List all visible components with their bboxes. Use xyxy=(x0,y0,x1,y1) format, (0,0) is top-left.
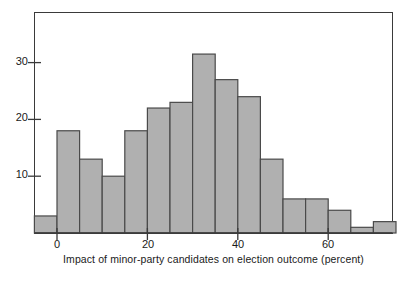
histogram-figure: 30 20 10 0 20 40 60 Impact of minor-part… xyxy=(0,0,408,283)
x-tick-label-60: 60 xyxy=(316,238,340,250)
histogram-bar xyxy=(283,199,306,233)
bars-group xyxy=(34,54,396,233)
histogram-bar xyxy=(34,216,57,233)
histogram-bar xyxy=(170,102,193,233)
histogram-bar xyxy=(328,210,351,233)
x-axis-title: Impact of minor-party candidates on elec… xyxy=(34,253,393,265)
histogram-bar xyxy=(193,54,216,233)
histogram-bar xyxy=(351,227,374,233)
y-tick-label-20: 20 xyxy=(6,111,28,123)
x-tick-label-0: 0 xyxy=(45,238,69,250)
x-tick-label-40: 40 xyxy=(226,238,250,250)
histogram-bar xyxy=(57,131,80,233)
histogram-bar xyxy=(373,222,396,233)
histogram-bar xyxy=(102,176,125,233)
histogram-bar xyxy=(125,131,148,233)
y-tick-label-30: 30 xyxy=(6,55,28,67)
x-tick-label-20: 20 xyxy=(136,238,160,250)
histogram-bar xyxy=(260,159,283,233)
histogram-bar xyxy=(306,199,329,233)
y-tick-label-10: 10 xyxy=(6,168,28,180)
histogram-bar xyxy=(80,159,103,233)
histogram-bar xyxy=(215,80,238,233)
histogram-bar xyxy=(147,108,170,233)
histogram-bar xyxy=(238,97,261,233)
